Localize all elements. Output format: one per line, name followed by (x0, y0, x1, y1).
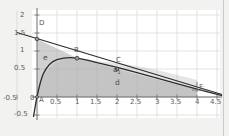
x-tick-label-2: 2 (115, 99, 119, 106)
point-label-d: D (39, 20, 44, 27)
x-tick-label-2.5: 2.5 (130, 99, 141, 106)
point-b-marker (75, 56, 79, 60)
y-tick-label-0.5: 0.5 (14, 65, 25, 72)
y-tick-label-1: 1 (20, 47, 24, 54)
point-label-a: A (39, 97, 44, 104)
x-tick-label-3.5: 3.5 (170, 99, 181, 106)
region-label-e: e (43, 54, 48, 62)
y-tick-label-2: 2 (20, 12, 24, 19)
point-d-marker (35, 37, 39, 41)
region-label-d: d (115, 79, 120, 87)
point-label-b: B (74, 47, 79, 54)
region-label-a1-subscript: 1 (118, 69, 121, 75)
right-panel-edge (223, 0, 229, 136)
y-tick-label-0: 0 (30, 95, 34, 102)
x-tick-label-4: 4 (195, 99, 199, 106)
x-tick-label-4.5: 4.5 (210, 99, 221, 106)
point-label-e: E (199, 84, 203, 91)
region-label-a1: a1 (113, 66, 121, 77)
y-tick-label-1.5: 1.5 (14, 30, 25, 37)
x-tick-label-1: 1 (75, 99, 79, 106)
x-tick-label-3: 3 (155, 99, 159, 106)
point-label-c: C (116, 57, 121, 64)
x-tick-label--0.5: -0.5 (3, 95, 17, 102)
x-tick-label-1.5: 1.5 (90, 99, 101, 106)
x-tick-label-0.5: 0.5 (50, 99, 61, 106)
figure-root: 2 1.5 1 0.5 0 -0.5 -0.5 0.5 1 1.5 2 2.5 … (0, 0, 229, 136)
y-tick-label--0.5: -0.5 (14, 111, 28, 118)
